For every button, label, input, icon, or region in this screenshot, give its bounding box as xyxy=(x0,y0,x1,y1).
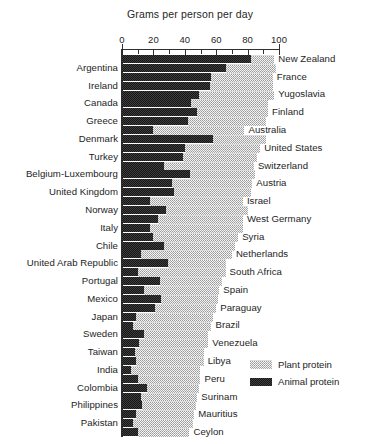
chart-legend: Plant proteinAnimal protein xyxy=(250,358,375,392)
chart-title: Grams per person per day xyxy=(0,8,380,20)
category-label: United Arab Republic xyxy=(27,257,118,268)
category-label: Australia xyxy=(248,124,286,135)
x-axis: 020406080100 xyxy=(122,34,279,56)
category-label: Netherlands xyxy=(236,248,288,259)
category-label: Finland xyxy=(272,106,304,117)
category-label: Canada xyxy=(84,97,118,108)
legend-swatch-animal-protein xyxy=(250,378,272,386)
legend-label: Plant protein xyxy=(278,359,332,370)
category-label: Brazil xyxy=(215,319,239,330)
category-label: Portugal xyxy=(82,275,118,286)
category-label: Ireland xyxy=(88,80,118,91)
category-label: Spain xyxy=(223,284,248,295)
category-label: Japan xyxy=(92,311,118,322)
protein-consumption-chart: Grams per person per day 020406080100 Ne… xyxy=(0,0,380,444)
x-axis-tick-label: 40 xyxy=(180,34,191,45)
category-label: Austria xyxy=(256,177,286,188)
legend-item: Animal protein xyxy=(250,375,375,388)
category-label: Switzerland xyxy=(258,160,308,171)
category-label: Pakistan xyxy=(81,417,118,428)
category-label: Italy xyxy=(100,222,118,233)
x-axis-tick-label: 80 xyxy=(242,34,253,45)
category-label: West Germany xyxy=(247,213,311,224)
category-label: Norway xyxy=(85,204,118,215)
category-label: Yugoslavia xyxy=(278,88,325,99)
x-axis-tick-label: 20 xyxy=(148,34,159,45)
category-label: Denmark xyxy=(79,133,118,144)
category-label: Argentina xyxy=(76,62,118,73)
category-label: Peru xyxy=(205,373,225,384)
category-label: Syria xyxy=(242,231,264,242)
legend-item: Plant protein xyxy=(250,358,375,371)
category-label: Turkey xyxy=(89,151,118,162)
legend-label: Animal protein xyxy=(278,376,339,387)
category-label: Libya xyxy=(208,355,231,366)
category-label: United Kingdom xyxy=(49,186,118,197)
legend-swatch-plant-protein xyxy=(250,360,272,369)
category-label: Taiwan xyxy=(88,346,118,357)
category-label: United States xyxy=(264,142,322,153)
category-label: Ceylon xyxy=(194,426,224,437)
x-axis-right-cap xyxy=(279,44,280,50)
category-label: Israel xyxy=(247,195,271,206)
category-label: France xyxy=(277,71,307,82)
category-label: Colombia xyxy=(77,382,118,393)
category-label: Chile xyxy=(96,240,118,251)
category-label: Greece xyxy=(86,115,118,126)
x-axis-tick-label: 60 xyxy=(211,34,222,45)
category-label: Surinam xyxy=(201,391,237,402)
category-label: India xyxy=(97,364,118,375)
category-label: Sweden xyxy=(83,328,118,339)
category-label: Venezuela xyxy=(212,337,257,348)
category-label: Paraguay xyxy=(220,302,261,313)
category-label: South Africa xyxy=(230,266,282,277)
category-label: Mauritius xyxy=(198,408,237,419)
x-axis-baseline xyxy=(122,49,280,50)
category-label: Mexico xyxy=(87,293,118,304)
category-label: Belgium-Luxembourg xyxy=(26,168,118,179)
category-label: New Zealand xyxy=(278,53,335,64)
category-label: Philippines xyxy=(71,399,118,410)
